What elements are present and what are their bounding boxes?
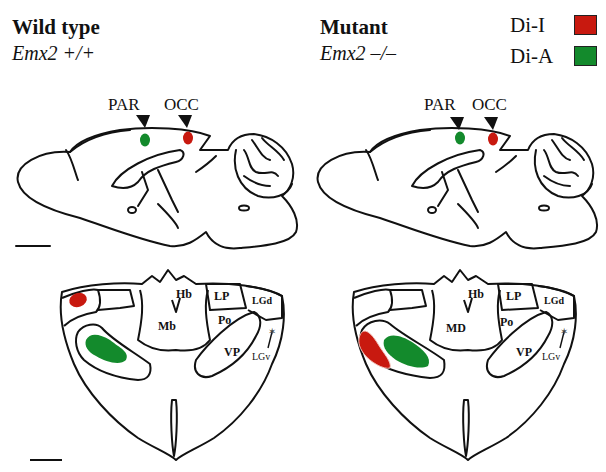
par-arrow-icon-wt: [136, 115, 150, 128]
dia-injection-wt: [140, 134, 150, 147]
coronal-section-wt: [61, 270, 284, 460]
dii-label-coronal-wt: [67, 290, 89, 309]
occ-arrow-icon-wt: [178, 115, 192, 128]
dia-injection-mut: [455, 132, 465, 145]
region-lgd-mut: LGd: [544, 295, 564, 306]
region-mb-wt: Mb: [158, 319, 176, 333]
occ-arrow-icon-mut: [484, 117, 498, 130]
region-lp-mut: LP: [506, 289, 521, 303]
region-po-wt: Po: [218, 313, 231, 327]
dia-label-coronal-mut: [384, 336, 429, 368]
region-lgd-wt: LGd: [252, 295, 272, 306]
region-hb-wt: Hb: [176, 287, 192, 301]
lgv-star-icon-mut: ✶: [560, 326, 568, 337]
region-lgv-mut: LGv: [542, 351, 560, 362]
dii-injection-wt: [183, 132, 193, 145]
region-vp-mut: VP: [516, 345, 532, 359]
region-vp-wt: VP: [224, 345, 240, 359]
region-po-mut: Po: [500, 315, 513, 329]
dii-injection-mut: [488, 133, 498, 146]
dia-label-coronal-wt: [85, 335, 126, 363]
region-hb-mut: Hb: [468, 287, 484, 301]
lgv-star-icon-wt: ✶: [268, 326, 276, 337]
region-md-mut: MD: [446, 321, 466, 335]
region-lp-wt: LP: [214, 289, 229, 303]
sagittal-brain-mut: [318, 128, 597, 248]
sagittal-brain-wt: [18, 128, 297, 248]
diagram-canvas: ✶ ✶ Hb LP LGd Mb Po VP LGv Hb LP LGd MD …: [0, 0, 606, 472]
region-lgv-wt: LGv: [252, 351, 270, 362]
